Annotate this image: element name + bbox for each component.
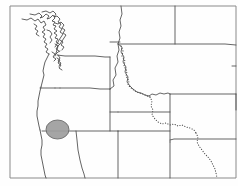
shaded-area-marker bbox=[46, 120, 69, 139]
shaded-area-marker bbox=[46, 120, 69, 139]
map-figure bbox=[0, 0, 238, 186]
map-canvas bbox=[0, 0, 238, 186]
